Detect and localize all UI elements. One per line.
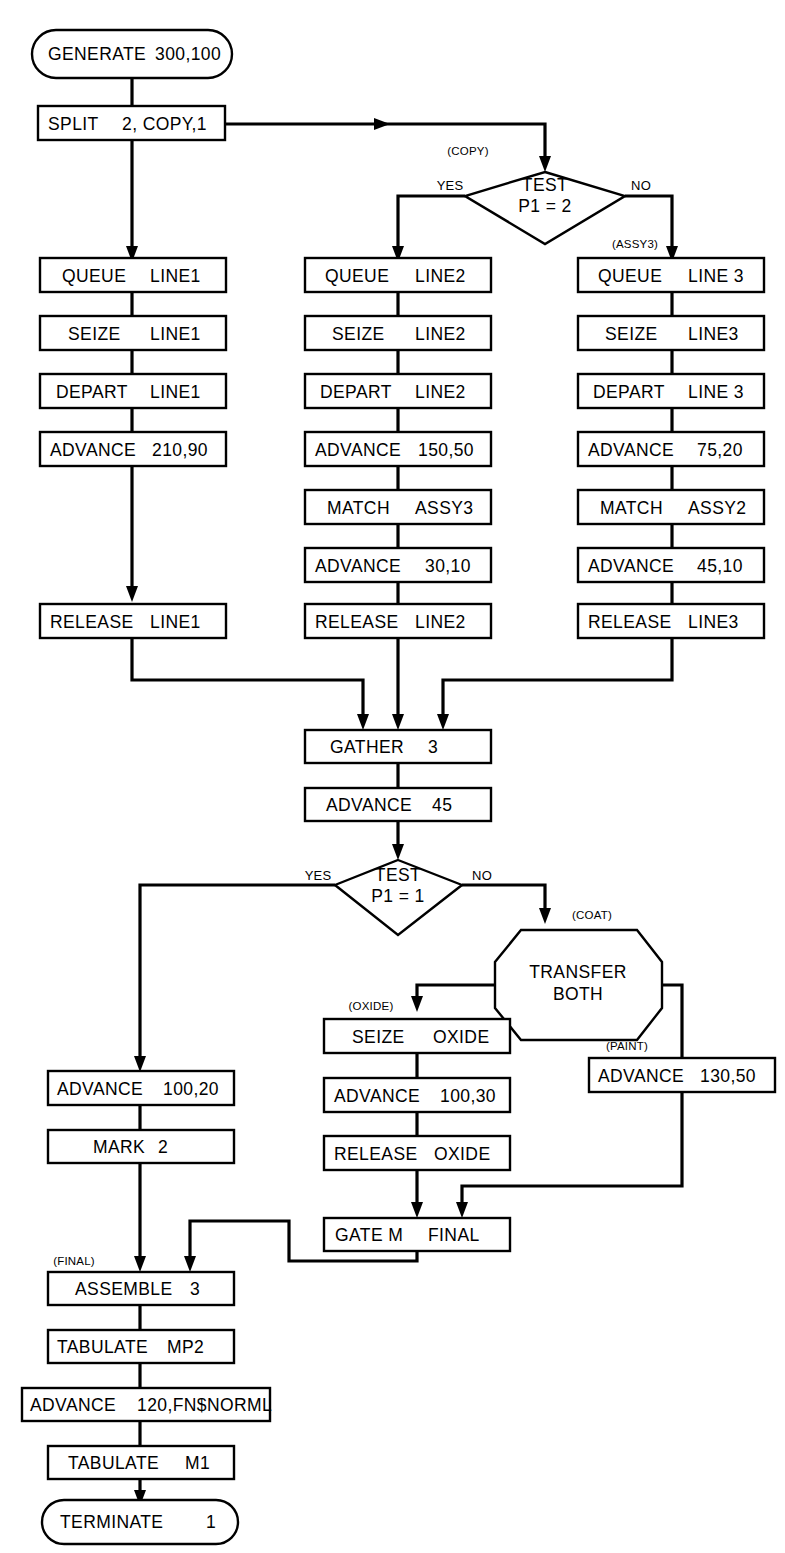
test-copy-no-label: NO (631, 178, 651, 193)
node-queue1[interactable]: QUEUE LINE1 (40, 258, 226, 292)
advance-paint-tag: (PAINT) (606, 1040, 648, 1052)
match2-op: MATCH (327, 498, 390, 518)
mark-op: MARK (93, 1137, 145, 1157)
node-generate[interactable]: GENERATE 300,100 (32, 30, 232, 78)
advance2b-op: ADVANCE (315, 556, 401, 576)
advance2-operand: 150,50 (418, 440, 474, 460)
queue3-op: QUEUE (598, 266, 662, 286)
queue2-op: QUEUE (325, 266, 389, 286)
node-depart1[interactable]: DEPART LINE1 (40, 374, 226, 408)
tabulate-m1-operand: M1 (185, 1453, 210, 1473)
node-advance-oxide[interactable]: ADVANCE 100,30 (324, 1078, 510, 1112)
node-advance-norm[interactable]: ADVANCE 120,FN$NORML (22, 1388, 272, 1421)
node-release1[interactable]: RELEASE LINE1 (40, 604, 226, 638)
advance3b-operand: 45,10 (697, 556, 743, 576)
test-final-line2: P1 = 1 (371, 886, 424, 906)
test-copy-line2: P1 = 2 (518, 196, 571, 216)
advance-paint-op: ADVANCE (598, 1066, 684, 1086)
queue3-tag: (ASSY3) (612, 238, 658, 250)
terminate-op: TERMINATE (60, 1512, 163, 1532)
arrow-advance1-release1 (126, 586, 138, 602)
advance45-operand: 45 (432, 795, 452, 815)
advance2-op: ADVANCE (315, 440, 401, 460)
conn-testfinal-no (462, 885, 545, 912)
node-seize3[interactable]: SEIZE LINE3 (578, 316, 764, 350)
node-release3[interactable]: RELEASE LINE3 (578, 604, 764, 638)
node-advance1[interactable]: ADVANCE 210,90 (40, 432, 226, 466)
terminate-operand: 1 (206, 1512, 216, 1532)
node-terminate[interactable]: TERMINATE 1 (42, 1500, 238, 1544)
seize2-operand: LINE2 (415, 324, 466, 344)
node-release2[interactable]: RELEASE LINE2 (305, 604, 491, 638)
node-tabulate-mp2[interactable]: TABULATE MP2 (48, 1330, 234, 1363)
node-depart2[interactable]: DEPART LINE2 (305, 374, 491, 408)
node-advance-left[interactable]: ADVANCE 100,20 (48, 1071, 234, 1105)
depart3-operand: LINE 3 (688, 382, 744, 402)
advance3b-op: ADVANCE (588, 556, 674, 576)
release3-operand: LINE3 (688, 612, 739, 632)
conn-testcopy-yes-queue2 (398, 196, 465, 250)
match3-op: MATCH (600, 498, 663, 518)
node-gate[interactable]: GATE M FINAL (324, 1218, 510, 1251)
advance-norm-op: ADVANCE (30, 1395, 116, 1415)
arrow-testfinal-no (539, 908, 551, 924)
node-transfer-both[interactable]: TRANSFER BOTH (COAT) (495, 909, 662, 1040)
node-gather[interactable]: GATHER 3 (305, 730, 491, 763)
advance-left-operand: 100,20 (163, 1079, 219, 1099)
conn-release3-gather (443, 637, 672, 718)
seize-oxide-tag: (OXIDE) (349, 1000, 394, 1012)
queue1-operand: LINE1 (150, 266, 201, 286)
depart1-op: DEPART (56, 382, 128, 402)
gather-op: GATHER (330, 737, 404, 757)
node-match3[interactable]: MATCH ASSY2 (578, 490, 764, 524)
arrow-split-testcopy (539, 156, 551, 172)
node-advance2[interactable]: ADVANCE 150,50 (305, 432, 491, 466)
transfer-line1: TRANSFER (529, 962, 627, 982)
node-tabulate-m1[interactable]: TABULATE M1 (48, 1446, 234, 1479)
node-queue2[interactable]: QUEUE LINE2 (305, 258, 491, 292)
node-split[interactable]: SPLIT 2, COPY,1 (38, 106, 225, 140)
advance45-op: ADVANCE (326, 795, 412, 815)
assemble-op: ASSEMBLE (75, 1279, 173, 1299)
node-mark[interactable]: MARK 2 (48, 1130, 234, 1163)
node-advance3[interactable]: ADVANCE 75,20 (578, 432, 764, 466)
gather-operand: 3 (428, 737, 438, 757)
node-advance3b[interactable]: ADVANCE 45,10 (578, 548, 764, 582)
mark-operand: 2 (158, 1137, 168, 1157)
node-seize2[interactable]: SEIZE LINE2 (305, 316, 491, 350)
node-advance45[interactable]: ADVANCE 45 (305, 788, 491, 821)
generate-operand: 300,100 (155, 44, 221, 64)
conn-transfer-paint (662, 985, 682, 1058)
release2-op: RELEASE (315, 612, 399, 632)
queue1-op: QUEUE (62, 266, 126, 286)
test-final-line1: TEST (375, 865, 421, 885)
seize-oxide-operand: OXIDE (433, 1027, 489, 1047)
split-operand: 2, COPY,1 (122, 114, 207, 134)
gate-op: GATE M (335, 1225, 403, 1245)
node-test-final[interactable]: TEST P1 = 1 YES NO (305, 860, 492, 935)
test-copy-line1: TEST (522, 175, 568, 195)
transfer-tag: (COAT) (572, 909, 612, 921)
arrow-paint-gate (456, 1202, 468, 1218)
conn-split-testcopy (225, 124, 545, 160)
node-depart3[interactable]: DEPART LINE 3 (578, 374, 764, 408)
advance-oxide-op: ADVANCE (334, 1086, 420, 1106)
test-copy-tag: (COPY) (447, 145, 488, 157)
conn-release1-gather (132, 637, 363, 718)
assemble-tag: (FINAL) (53, 1255, 95, 1267)
queue2-operand: LINE2 (415, 266, 466, 286)
node-seize1[interactable]: SEIZE LINE1 (40, 316, 226, 350)
node-release-oxide[interactable]: RELEASE OXIDE (324, 1136, 510, 1170)
tabulate-mp2-operand: MP2 (167, 1337, 204, 1357)
advance1-op: ADVANCE (50, 440, 136, 460)
node-match2[interactable]: MATCH ASSY3 (305, 490, 491, 524)
arrow-advance45-testfinal (392, 844, 404, 860)
arrow-release1-gather (357, 714, 369, 730)
depart1-operand: LINE1 (150, 382, 201, 402)
conn-transfer-oxide (417, 985, 495, 1000)
arrow-testfinal-yes (134, 1056, 146, 1072)
node-advance2b[interactable]: ADVANCE 30,10 (305, 548, 491, 582)
tabulate-m1-op: TABULATE (68, 1453, 159, 1473)
release1-op: RELEASE (50, 612, 134, 632)
seize1-operand: LINE1 (150, 324, 201, 344)
